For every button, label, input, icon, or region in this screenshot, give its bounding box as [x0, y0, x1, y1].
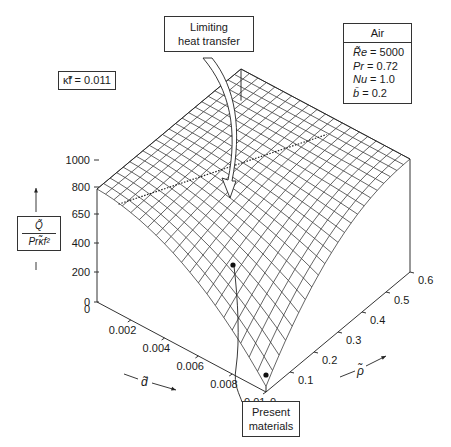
svg-text:0.3: 0.3	[346, 334, 361, 346]
z-axis-label: Q̃ Prκ̃f²	[17, 216, 61, 251]
svg-text:0.006: 0.006	[176, 360, 204, 372]
svg-text:400: 400	[72, 237, 90, 249]
svg-text:800: 800	[72, 181, 90, 193]
present-materials-callout: Present materials	[242, 401, 300, 437]
svg-text:ρ̃: ρ̃	[356, 363, 364, 378]
svg-text:0.2: 0.2	[322, 354, 337, 366]
svg-text:d̃: d̃	[141, 375, 148, 389]
svg-text:0.1: 0.1	[298, 374, 313, 386]
svg-text:0.008: 0.008	[210, 378, 238, 390]
axis-ticks: 0200400650800100000.0020.0040.0060.0080.…	[66, 154, 434, 408]
limiting-heat-transfer-callout: Limiting heat transfer	[164, 16, 254, 52]
svg-text:0.002: 0.002	[109, 324, 137, 336]
svg-text:0.5: 0.5	[394, 294, 409, 306]
limiting-line2: heat transfer	[171, 34, 247, 48]
kappa-box: κ̃f = 0.011	[58, 71, 116, 90]
param-pr: Pr = 0.72	[353, 60, 406, 74]
svg-text:0.004: 0.004	[143, 342, 171, 354]
limiting-line1: Limiting	[171, 20, 247, 34]
svg-text:200: 200	[72, 266, 90, 278]
param-re: R̃e = 5000	[353, 46, 406, 60]
kappa-value: κ̃f = 0.011	[63, 74, 111, 86]
fluid-header: Air	[344, 24, 411, 43]
svg-text:1000: 1000	[66, 154, 90, 166]
param-b: b̄ = 0.2	[353, 87, 406, 101]
param-nu: Nu = 1.0	[353, 73, 406, 87]
z-label-numerator: Q̃	[22, 220, 56, 234]
svg-text:0.4: 0.4	[370, 314, 385, 326]
present-line2: materials	[247, 419, 295, 433]
svg-text:0: 0	[84, 303, 90, 315]
svg-text:0.6: 0.6	[418, 274, 433, 286]
z-label-denominator: Prκ̃f²	[20, 236, 58, 247]
parameters-box: Air R̃e = 5000 Pr = 0.72 Nu = 1.0 b̄ = 0…	[343, 23, 412, 104]
present-line1: Present	[247, 405, 295, 419]
svg-text:650: 650	[72, 208, 90, 220]
